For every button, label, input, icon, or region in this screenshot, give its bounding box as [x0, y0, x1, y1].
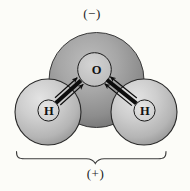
oxygen-symbol: O [92, 63, 102, 77]
hydrogen-right-symbol: H [140, 104, 150, 118]
water-molecule-polarity-figure: (−) O H H (+) [0, 0, 190, 191]
positive-charge-label: (+) [87, 166, 105, 181]
negative-charge-label: (−) [83, 6, 101, 21]
hydrogen-left-symbol: H [44, 104, 54, 118]
molecule-diagram: (−) O H H (+) [0, 0, 190, 191]
